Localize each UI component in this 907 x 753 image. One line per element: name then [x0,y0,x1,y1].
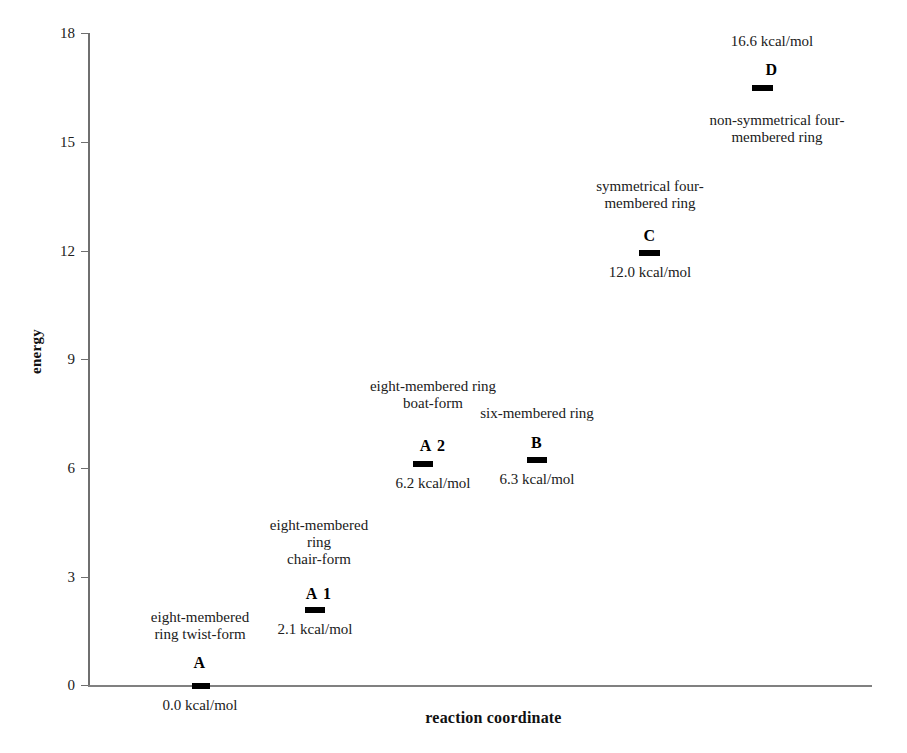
data-point-b-level-bar [527,457,547,463]
y-tick-3 [81,577,89,578]
data-point-d-value: 16.6 kcal/mol [682,33,862,50]
y-tick-label-15-wrap: 15 [30,135,75,150]
y-tick-label-18-wrap: 18 [30,26,75,41]
data-point-a-letter: A [120,655,280,671]
energy-diagram-chart: 18 15 12 9 6 3 0 energy reaction coordin… [0,0,907,753]
y-tick-label-12-wrap: 12 [30,244,75,259]
data-point-a-level-bar [192,683,210,689]
y-tick-label-0: 0 [35,678,75,693]
data-point-b-letter: B [457,435,617,451]
data-point-c-level-bar [639,250,660,256]
data-point-a2-level-bar [413,461,433,467]
data-point-a1-level-bar [305,607,325,613]
data-point-a-value: 0.0 kcal/mol [120,697,280,714]
data-point-a1-value: 2.1 kcal/mol [235,621,395,638]
data-point-a1-description: eight-membered ring chair-form [239,517,399,568]
data-point-c-value: 12.0 kcal/mol [570,264,730,281]
data-point-c-description: symmetrical four- membered ring [570,178,730,212]
y-tick-label-3: 3 [35,570,75,585]
y-tick-label-18: 18 [35,26,75,41]
y-tick-label-6-wrap: 6 [30,461,75,476]
data-point-d-description: non-symmetrical four- membered ring [682,112,872,146]
y-tick-label-6: 6 [35,461,75,476]
data-point-b-value: 6.3 kcal/mol [457,471,617,488]
y-tick-15 [81,142,89,143]
y-tick-18 [81,33,89,34]
y-axis-line [88,33,90,687]
data-point-b-description: six-membered ring [457,405,617,422]
data-point-d-level-bar [752,85,773,91]
y-tick-label-3-wrap: 3 [30,570,75,585]
y-tick-9 [81,359,89,360]
data-point-d-letter: D [682,62,862,78]
y-axis-title: energy [28,310,45,394]
data-point-c-letter: C [570,228,730,244]
data-point-a1-letter: A 1 [239,586,399,602]
y-tick-label-12: 12 [35,244,75,259]
y-tick-label-0-wrap: 0 [30,678,75,693]
y-tick-6 [81,468,89,469]
y-tick-label-15: 15 [35,135,75,150]
y-tick-12 [81,251,89,252]
